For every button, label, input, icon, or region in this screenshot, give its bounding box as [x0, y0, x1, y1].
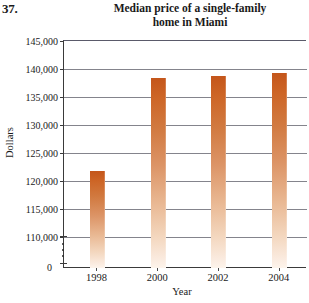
y-tick-label: 145,000 [26, 36, 59, 47]
y-tick-label-zero: 0 [47, 262, 52, 273]
problem-number: 37. [2, 1, 18, 17]
gridline [64, 69, 307, 70]
y-tick-mark [60, 41, 64, 42]
gridline [64, 97, 307, 98]
bar-2002 [211, 76, 226, 268]
bar-1998 [90, 171, 105, 268]
x-tick-mark [218, 268, 219, 271]
gridline [64, 125, 307, 126]
y-tick-label: 130,000 [26, 120, 59, 131]
x-tick-label: 2000 [147, 272, 168, 283]
y-tick-label: 115,000 [26, 204, 58, 215]
x-axis-title: Year [55, 286, 309, 297]
x-tick-label: 2004 [268, 272, 289, 283]
x-tick-mark [157, 268, 158, 271]
gridline [64, 153, 307, 154]
x-tick-label: 1998 [86, 272, 107, 283]
y-axis-title: Dollars [4, 113, 15, 173]
y-tick-label: 135,000 [26, 92, 59, 103]
y-tick-mark [60, 97, 64, 98]
bar-2000 [151, 78, 166, 268]
chart-title-line-1: Median price of a single-family [74, 2, 306, 16]
y-tick-mark [60, 153, 64, 154]
chart-title: Median price of a single-family home in … [74, 2, 306, 29]
y-tick-mark [60, 125, 64, 126]
plot-area: 145,000140,000135,000130,000125,000120,0… [63, 40, 306, 268]
x-tick-label: 2002 [207, 272, 228, 283]
y-tick-mark [60, 209, 64, 210]
y-tick-label: 140,000 [26, 64, 59, 75]
y-tick-label: 120,000 [26, 176, 59, 187]
bar-2004 [272, 73, 287, 268]
y-tick-mark [60, 181, 64, 182]
y-tick-mark [60, 69, 64, 70]
axis-break-symbol [60, 236, 67, 264]
chart-title-line-2: home in Miami [74, 16, 306, 30]
y-tick-label: 125,000 [26, 148, 59, 159]
x-tick-mark [96, 268, 97, 271]
y-tick-label: 110,000 [26, 232, 58, 243]
x-tick-mark [279, 268, 280, 271]
figure-container: 37. Median price of a single-family home… [0, 0, 309, 303]
